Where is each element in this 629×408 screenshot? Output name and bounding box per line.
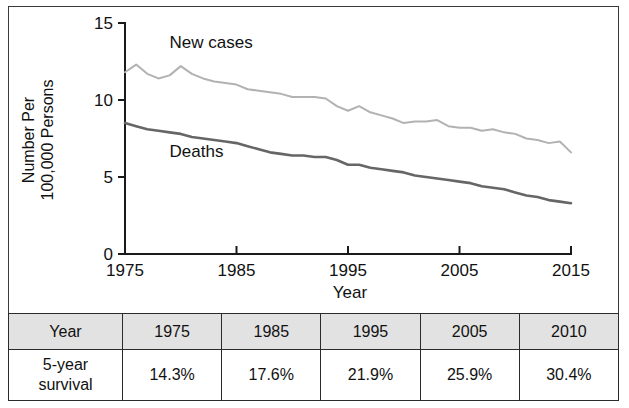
y-tick-label-15: 15 bbox=[94, 14, 113, 33]
figure-container: Number Per 100,000 Persons 0510151975198… bbox=[0, 0, 629, 408]
x-tick-label-2015: 2015 bbox=[552, 261, 590, 280]
series-label-new-cases: New cases bbox=[170, 33, 253, 52]
chart-axes bbox=[125, 23, 571, 254]
chart-ticks bbox=[118, 23, 571, 254]
table-row: 5-yearsurvival14.3%17.6%21.9%25.9%30.4% bbox=[9, 350, 619, 401]
chart-series bbox=[125, 65, 571, 204]
table-cell-1975: 14.3% bbox=[123, 350, 222, 401]
y-tick-label-5: 5 bbox=[104, 168, 113, 187]
table-row-label-line1: 5-year bbox=[9, 355, 122, 375]
chart-tick-labels: 05101519751985199520052015 bbox=[94, 14, 590, 280]
survival-table: Year19751985199520052010 5-yearsurvival1… bbox=[8, 313, 619, 401]
x-tick-label-1995: 1995 bbox=[329, 261, 367, 280]
x-tick-label-1985: 1985 bbox=[218, 261, 256, 280]
table-header-cell-1985: 1985 bbox=[222, 314, 321, 350]
table-header-row: Year19751985199520052010 bbox=[9, 314, 619, 350]
series-label-deaths: Deaths bbox=[170, 142, 224, 161]
table-header-cell-2010: 2010 bbox=[519, 314, 618, 350]
table-header-cell-1975: 1975 bbox=[123, 314, 222, 350]
table-row-label-line2: survival bbox=[9, 375, 122, 395]
x-axis-title: Year bbox=[305, 283, 395, 303]
x-tick-label-2005: 2005 bbox=[441, 261, 479, 280]
table-header-cell-1995: 1995 bbox=[321, 314, 420, 350]
x-tick-label-1975: 1975 bbox=[106, 261, 144, 280]
table-row-label: 5-yearsurvival bbox=[9, 350, 123, 401]
series-line-new-cases bbox=[125, 65, 571, 153]
table-cell-1995: 21.9% bbox=[321, 350, 420, 401]
table-cell-2005: 25.9% bbox=[420, 350, 519, 401]
chart-series-labels: New casesDeaths bbox=[170, 33, 253, 161]
y-tick-label-10: 10 bbox=[94, 91, 113, 110]
table-header-cell-2005: 2005 bbox=[420, 314, 519, 350]
table-cell-2010: 30.4% bbox=[519, 350, 618, 401]
table-cell-1985: 17.6% bbox=[222, 350, 321, 401]
series-line-deaths bbox=[125, 123, 571, 203]
table-header-cell-label: Year bbox=[9, 314, 123, 350]
